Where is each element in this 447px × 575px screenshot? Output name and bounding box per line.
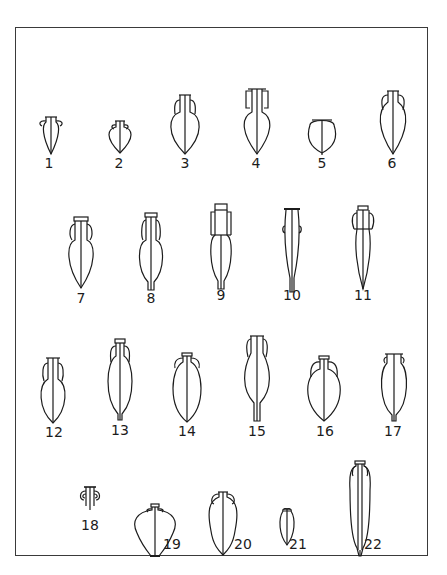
- label-22: 22: [364, 537, 382, 551]
- amphora-2: [104, 119, 136, 155]
- amphora-10: [281, 208, 303, 294]
- label-11: 11: [354, 288, 372, 302]
- label-13: 13: [111, 423, 129, 437]
- label-10: 10: [283, 288, 301, 302]
- amphora-9: [208, 203, 234, 291]
- label-2: 2: [115, 156, 124, 170]
- amphora-1: [36, 116, 66, 156]
- label-19: 19: [163, 537, 181, 551]
- amphora-15: [241, 335, 273, 423]
- amphora-8: [137, 212, 165, 292]
- label-9: 9: [217, 288, 226, 302]
- label-15: 15: [248, 424, 266, 438]
- amphora-7: [66, 216, 96, 290]
- label-18: 18: [81, 518, 99, 532]
- label-17: 17: [384, 424, 402, 438]
- label-21: 21: [289, 537, 307, 551]
- label-5: 5: [318, 156, 327, 170]
- amphora-11: [351, 205, 375, 291]
- amphora-5: [306, 117, 338, 157]
- label-8: 8: [147, 291, 156, 305]
- amphora-14: [169, 352, 205, 424]
- amphora-12: [38, 357, 68, 425]
- label-20: 20: [234, 537, 252, 551]
- label-1: 1: [45, 156, 54, 170]
- label-6: 6: [388, 156, 397, 170]
- amphora-17: [379, 353, 409, 423]
- amphora-4: [240, 88, 274, 156]
- label-12: 12: [45, 425, 63, 439]
- label-3: 3: [181, 156, 190, 170]
- label-16: 16: [316, 424, 334, 438]
- amphora-6: [377, 90, 409, 156]
- label-7: 7: [77, 291, 86, 305]
- amphora-3: [167, 94, 203, 156]
- amphora-18: [78, 486, 102, 510]
- label-4: 4: [252, 156, 261, 170]
- amphora-13: [104, 338, 136, 422]
- amphora-16: [303, 355, 345, 423]
- label-14: 14: [178, 424, 196, 438]
